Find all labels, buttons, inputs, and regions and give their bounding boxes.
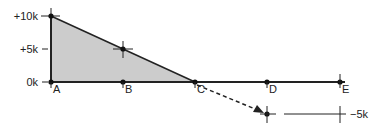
value-diagram: +10k +5k 0k A B C D E −5k [0,0,381,135]
tick-label-5k: +5k [20,43,39,55]
tick-label-0k: 0k [26,76,38,88]
point-label-d: D [269,83,277,95]
point-label-a: A [53,83,61,95]
dashed-arrow-line [197,85,260,111]
point-label-e: E [342,83,349,95]
tick-label-10k: +10k [14,10,39,22]
tick-label-neg5k: −5k [350,108,369,120]
arrow-head-icon [253,105,264,113]
point-label-b: B [125,83,132,95]
